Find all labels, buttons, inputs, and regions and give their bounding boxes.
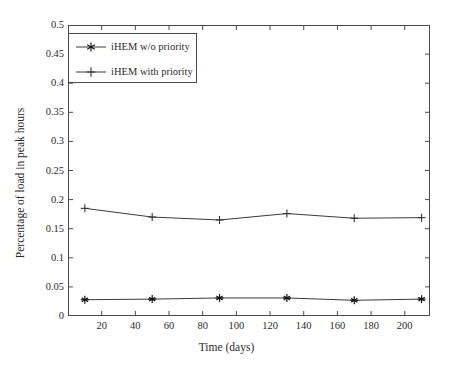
y-axis-tick-labels: 00.050.10.150.20.250.30.350.40.450.5 bbox=[0, 0, 64, 366]
data-point-marker bbox=[148, 213, 156, 221]
data-point-marker bbox=[283, 294, 291, 302]
data-point-marker bbox=[148, 295, 156, 303]
legend-marker-star-icon bbox=[74, 40, 108, 54]
data-point-marker bbox=[81, 204, 89, 212]
data-point-marker bbox=[418, 214, 426, 222]
x-tick-label: 120 bbox=[262, 321, 278, 332]
x-tick-label: 140 bbox=[296, 321, 312, 332]
y-tick-label: 0.5 bbox=[51, 20, 64, 31]
data-point-marker bbox=[350, 214, 358, 222]
data-point-marker bbox=[350, 296, 358, 304]
x-axis-title: Time (days) bbox=[0, 341, 453, 353]
x-tick-label: 60 bbox=[164, 321, 175, 332]
x-axis-tick-labels: 20406080100120140160180200 bbox=[0, 321, 453, 337]
data-point-marker bbox=[283, 210, 291, 218]
y-tick-label: 0.45 bbox=[46, 49, 64, 60]
x-tick-label: 100 bbox=[228, 321, 244, 332]
y-tick-label: 0.3 bbox=[51, 136, 64, 147]
y-tick-label: 0.05 bbox=[46, 282, 64, 293]
series-line-0 bbox=[85, 298, 422, 300]
y-tick-label: 0.2 bbox=[51, 195, 64, 206]
y-tick-label: 0.25 bbox=[46, 166, 64, 177]
y-tick-label: 0 bbox=[59, 311, 64, 322]
series-line-1 bbox=[85, 208, 422, 220]
data-point-marker bbox=[81, 296, 89, 304]
data-point-marker bbox=[418, 295, 426, 303]
data-point-marker bbox=[216, 216, 224, 224]
chart-figure: Percentage of load in peak hours 00.050.… bbox=[0, 0, 453, 366]
chart-legend: iHEM w/o priority iHEM with priority bbox=[68, 33, 197, 83]
x-tick-label: 80 bbox=[197, 321, 208, 332]
x-tick-label: 40 bbox=[130, 321, 141, 332]
x-tick-label: 200 bbox=[397, 321, 413, 332]
y-tick-label: 0.35 bbox=[46, 107, 64, 118]
legend-marker-plus-icon bbox=[74, 65, 108, 79]
data-point-marker bbox=[216, 294, 224, 302]
y-tick-label: 0.15 bbox=[46, 224, 64, 235]
x-tick-label: 160 bbox=[330, 321, 346, 332]
y-tick-label: 0.4 bbox=[51, 78, 64, 89]
y-tick-label: 0.1 bbox=[51, 253, 64, 264]
legend-entry-1: iHEM with priority bbox=[69, 59, 198, 84]
x-tick-label: 20 bbox=[96, 321, 107, 332]
x-tick-label: 180 bbox=[363, 321, 379, 332]
legend-label-0: iHEM w/o priority bbox=[111, 41, 190, 53]
data-series-group bbox=[81, 204, 426, 304]
legend-label-1: iHEM with priority bbox=[111, 66, 193, 78]
legend-entry-0: iHEM w/o priority bbox=[69, 34, 198, 59]
